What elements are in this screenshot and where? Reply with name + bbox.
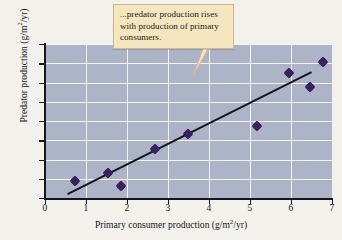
- x-axis-tick-label: 5: [235, 203, 265, 213]
- y-axis-tick: [39, 121, 44, 122]
- y-axis-title: Predator production (g/m2/yr): [18, 0, 29, 151]
- plot-area: [45, 44, 332, 198]
- y-axis-tick: [39, 140, 44, 141]
- x-axis-tick-label: 0: [30, 203, 60, 213]
- x-axis-tick-label: 1: [71, 203, 101, 213]
- callout-annotation: ...predator production rises with produc…: [113, 4, 234, 49]
- y-axis-tick: [39, 179, 44, 180]
- x-axis-tick-label: 2: [112, 203, 142, 213]
- y-axis-tick: [39, 83, 44, 84]
- y-axis-tick: [39, 102, 44, 103]
- x-axis-tick-label: 6: [276, 203, 306, 213]
- y-axis-tick: [39, 198, 44, 199]
- callout-text: ...predator production rises with produc…: [120, 9, 219, 42]
- x-axis-title: Primary consumer production (g/m2/yr): [0, 219, 342, 230]
- x-axis-tick-label: 3: [153, 203, 183, 213]
- y-axis-tick: [39, 160, 44, 161]
- y-axis-tick: [39, 44, 44, 45]
- y-axis-tick: [39, 63, 44, 64]
- figure-container: 00.511.522.533.54 01234567 Predator prod…: [0, 0, 342, 240]
- y-axis-line: [44, 43, 46, 199]
- x-axis-tick-label: 7: [317, 203, 342, 213]
- x-axis-tick-label: 4: [194, 203, 224, 213]
- trend-line: [45, 44, 332, 198]
